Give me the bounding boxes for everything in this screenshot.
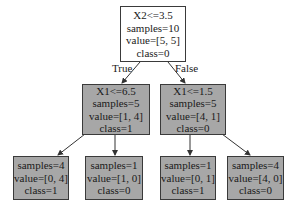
- node-split: X2<=3.5: [133, 9, 173, 22]
- leaf-class: class=0: [97, 184, 130, 197]
- leaf-value: value=[0, 4]: [14, 172, 68, 185]
- leaf-samples: samples=1: [164, 159, 211, 172]
- leaf-class: class=1: [171, 184, 204, 197]
- tree-node-right: X1<=1.5 samples=5 value=[4, 1] class=0: [160, 84, 226, 135]
- node-split: X1<=6.5: [96, 85, 136, 98]
- tree-leaf-2: samples=1 value=[0, 1] class=1: [160, 156, 216, 200]
- leaf-value: value=[0, 1]: [161, 172, 215, 185]
- leaf-value: value=[1, 0]: [87, 172, 141, 185]
- tree-leaf-0: samples=4 value=[0, 4] class=1: [13, 156, 69, 200]
- leaf-samples: samples=4: [232, 159, 279, 172]
- leaf-value: value=[4, 0]: [229, 172, 283, 185]
- edge-right-leaf3: [222, 134, 250, 155]
- node-split: X1<=1.5: [173, 85, 213, 98]
- edge-left-leaf0: [58, 134, 85, 155]
- edge-label-true: True: [112, 62, 132, 74]
- node-value: value=[4, 1]: [166, 110, 220, 123]
- leaf-class: class=0: [239, 184, 272, 197]
- tree-leaf-1: samples=1 value=[1, 0] class=0: [85, 156, 143, 200]
- edge-label-false: False: [175, 62, 198, 74]
- node-class: class=0: [136, 47, 169, 60]
- node-samples: samples=5: [92, 97, 139, 110]
- tree-node-left: X1<=6.5 samples=5 value=[1, 4] class=1: [82, 84, 150, 135]
- node-samples: samples=5: [169, 97, 216, 110]
- node-value: value=[5, 5]: [126, 34, 180, 47]
- leaf-class: class=1: [24, 184, 57, 197]
- leaf-samples: samples=4: [17, 159, 64, 172]
- node-value: value=[1, 4]: [89, 110, 143, 123]
- leaf-samples: samples=1: [90, 159, 137, 172]
- tree-leaf-3: samples=4 value=[4, 0] class=0: [227, 156, 284, 200]
- node-class: class=1: [99, 122, 132, 135]
- node-class: class=0: [176, 122, 209, 135]
- node-samples: samples=10: [127, 22, 180, 35]
- tree-node-root: X2<=3.5 samples=10 value=[5, 5] class=0: [120, 6, 186, 62]
